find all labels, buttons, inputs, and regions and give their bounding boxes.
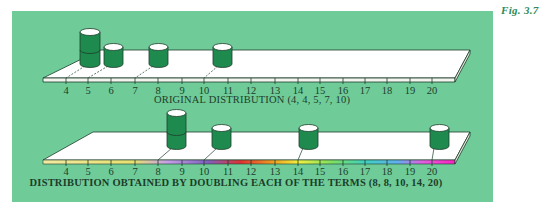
- svg-text:19: 19: [405, 166, 416, 177]
- bottom-plank: 4 5 6 7 8 9 10 11 12 13 14 15 16 17 18 1…: [30, 132, 470, 189]
- svg-text:15: 15: [315, 166, 326, 177]
- svg-text:4: 4: [63, 166, 69, 177]
- distribution-diagram: 4 5 6 7 8 9 10 11 12 13 14 15 16 17 18 1…: [0, 0, 547, 208]
- svg-text:14: 14: [293, 166, 304, 177]
- cylinder-10: [213, 44, 232, 68]
- cylinder-5: [104, 44, 123, 68]
- svg-text:5: 5: [85, 166, 90, 177]
- bottom-axis-labels: 4 5 6 7 8 9 10 11 12 13 14 15 16 17 18 1…: [63, 166, 437, 177]
- svg-text:6: 6: [108, 166, 113, 177]
- svg-text:16: 16: [338, 166, 349, 177]
- svg-text:7: 7: [132, 85, 137, 96]
- svg-text:8: 8: [155, 166, 160, 177]
- svg-text:10: 10: [199, 166, 210, 177]
- svg-text:7: 7: [132, 166, 137, 177]
- svg-text:17: 17: [360, 166, 371, 177]
- cylinder-7: [149, 44, 168, 68]
- svg-text:5: 5: [85, 85, 90, 96]
- cylinder-14: [299, 125, 318, 150]
- svg-text:13: 13: [270, 166, 281, 177]
- bottom-caption: DISTRIBUTION OBTAINED BY DOUBLING EACH O…: [30, 177, 443, 189]
- svg-text:11: 11: [223, 166, 233, 177]
- svg-text:20: 20: [427, 166, 438, 177]
- top-caption: ORIGINAL DISTRIBUTION (4, 4, 5, 7, 10): [154, 94, 350, 106]
- svg-text:12: 12: [246, 166, 257, 177]
- svg-text:19: 19: [405, 85, 416, 96]
- svg-text:9: 9: [179, 166, 184, 177]
- svg-text:6: 6: [108, 85, 113, 96]
- cylinder-10: [212, 125, 231, 150]
- svg-text:18: 18: [382, 166, 393, 177]
- cylinder-8-stack: [167, 110, 186, 150]
- cylinder-4-stack: [80, 29, 100, 68]
- cylinder-20: [430, 125, 449, 150]
- svg-text:18: 18: [382, 85, 393, 96]
- svg-text:4: 4: [63, 85, 69, 96]
- svg-text:17: 17: [360, 85, 371, 96]
- svg-text:20: 20: [427, 85, 438, 96]
